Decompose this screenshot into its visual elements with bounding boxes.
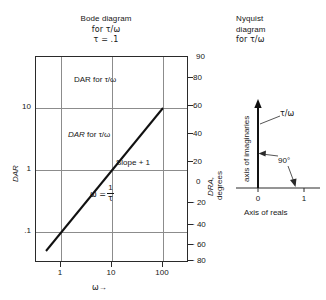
x-tickmark-10: [111, 262, 112, 267]
bode-diagram-title: Bode diagram for τ/ω τ = .1: [46, 14, 166, 46]
y2-tick-20: 20: [193, 157, 202, 166]
nyquist-diagram-title: Nyquist diagram for τ/ω: [236, 14, 316, 46]
bode-plot-area: DAR for τ/ω DAR for τ/ω Slope + 1 ω =1τ: [35, 56, 188, 262]
y2-tickmark-neg80: [188, 260, 193, 261]
y2-axis-title-degrees: degrees: [215, 171, 224, 200]
fraction-numerator: 1: [107, 184, 114, 192]
fraction-one-over-tau: 1τ: [107, 184, 114, 203]
nyquist-angle-label: 90°: [278, 156, 290, 165]
x-axis-title-arrow: →: [99, 283, 107, 292]
nyquist-real-axis-label: Axis of reals: [244, 208, 288, 217]
bode-title-line-2: for τ/ω: [46, 25, 166, 36]
annotation-corner-frequency: ω =1τ: [90, 185, 114, 204]
figure-root: Bode diagram for τ/ω τ = .1 Nyquist diag…: [0, 0, 326, 300]
nyquist-title-line-3: for τ/ω: [236, 35, 316, 46]
y2-tickmark-40: [188, 133, 193, 134]
annotation-dar-region: DAR for τ/ω: [68, 130, 110, 139]
y2-tickmark-neg20: [188, 202, 193, 203]
y2-tick-80: 80: [193, 73, 202, 82]
y2-tick-60: 60: [193, 101, 202, 110]
bode-title-line-3: τ = .1: [46, 35, 166, 46]
annotation-slope: Slope + 1: [116, 158, 150, 167]
y2-tickmark-20: [188, 161, 193, 162]
nyquist-x-tick-1: 1: [294, 194, 314, 203]
dar-slope-line: [36, 57, 189, 263]
x-axis-title-omega: ω: [92, 283, 99, 292]
nyquist-title-line-2: diagram: [236, 25, 316, 36]
y2-axis-title-dra: DRA,: [206, 177, 215, 196]
x-axis-title: ω→: [92, 283, 107, 292]
y2-tick-40: 40: [193, 129, 202, 138]
nyquist-imaginary-axis-label: axis of imaginaries: [242, 116, 251, 182]
y2-tickmark-80: [188, 77, 193, 78]
y2-tick-0: 0: [196, 177, 200, 186]
x-tick-1: 1: [45, 268, 75, 277]
y2-tick-90: 90: [196, 52, 205, 61]
annotation-omega-lhs: ω =: [90, 190, 106, 199]
nyquist-vector-label: τ/ω: [280, 109, 294, 118]
y-tick-0.1: .1: [8, 226, 31, 235]
fraction-denominator: τ: [107, 195, 114, 203]
annotation-dar-italic: DAR: [68, 130, 85, 139]
y-axis-title-dar: DAR: [11, 165, 20, 182]
y2-tickmark-neg60: [188, 244, 193, 245]
x-tick-100: 100: [147, 268, 177, 277]
annotation-dar-suffix: for τ/ω: [85, 130, 110, 139]
bode-title-line-1: Bode diagram: [46, 14, 166, 25]
nyquist-title-line-1: Nyquist: [236, 14, 316, 25]
y2-tickmark-neg40: [188, 224, 193, 225]
y-tick-10: 10: [8, 102, 31, 111]
y2-tickmark-60: [188, 105, 193, 106]
x-tickmark-1: [60, 262, 61, 267]
x-tick-10: 10: [96, 268, 126, 277]
nyquist-plot-area: axis of imaginaries τ/ω 90° 0 1 Axis of …: [236, 96, 320, 220]
x-tickmark-100: [162, 262, 163, 267]
nyquist-x-tick-0: 0: [248, 194, 268, 203]
annotation-dra-region: DAR for τ/ω: [74, 75, 116, 84]
